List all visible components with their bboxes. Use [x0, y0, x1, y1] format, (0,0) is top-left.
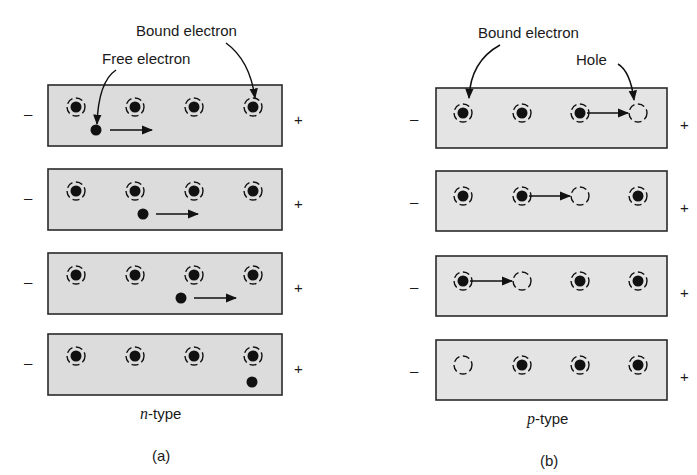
n-type-row: [48, 169, 282, 230]
caption-b: (b): [540, 452, 558, 469]
semiconductor-conduction-diagram: [0, 0, 697, 475]
positive-terminal: +: [680, 199, 689, 216]
p-type-row: [436, 256, 667, 316]
negative-terminal: –: [24, 273, 32, 290]
negative-terminal: –: [410, 278, 418, 295]
negative-terminal: –: [24, 354, 32, 371]
free-electron-icon: [91, 125, 102, 136]
free-electron-icon: [138, 209, 149, 220]
panel-a-n-type: [48, 85, 282, 395]
free-electron-icon: [176, 293, 187, 304]
n-type-row: [48, 253, 282, 314]
negative-terminal: –: [410, 193, 418, 210]
positive-terminal: +: [680, 284, 689, 301]
positive-terminal: +: [294, 111, 303, 128]
positive-terminal: +: [680, 116, 689, 133]
negative-terminal: –: [24, 189, 32, 206]
n-type-label: n-type: [140, 405, 181, 423]
negative-terminal: –: [410, 362, 418, 379]
p-type-letter: p: [527, 410, 535, 427]
p-type-row: [436, 340, 667, 400]
p-type-label: p-type: [527, 410, 568, 428]
positive-terminal: +: [680, 368, 689, 385]
bound-electron-label-a: Bound electron: [136, 22, 237, 39]
n-type-row: [48, 85, 282, 146]
n-type-row: [48, 334, 282, 395]
caption-a: (a): [152, 447, 170, 464]
n-type-letter: n: [140, 405, 148, 422]
positive-terminal: +: [294, 360, 303, 377]
free-electron-icon: [247, 377, 258, 388]
p-type-row: [436, 171, 667, 231]
n-type-suffix: -type: [148, 405, 181, 422]
p-type-row: [436, 88, 667, 148]
bound-electron-label-b: Bound electron: [478, 24, 579, 41]
positive-terminal: +: [294, 279, 303, 296]
positive-terminal: +: [294, 195, 303, 212]
negative-terminal: –: [410, 110, 418, 127]
hole-label: Hole: [576, 51, 607, 68]
negative-terminal: –: [24, 105, 32, 122]
p-type-suffix: -type: [535, 410, 568, 427]
free-electron-label: Free electron: [102, 50, 190, 67]
panel-b-p-type: [436, 88, 667, 400]
